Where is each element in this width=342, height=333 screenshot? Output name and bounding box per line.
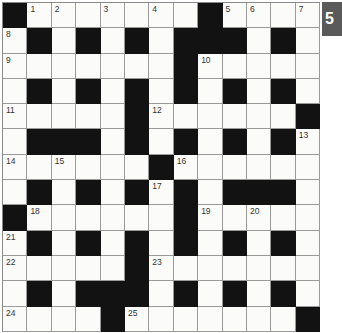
crossword-cell[interactable] [198,79,222,104]
crossword-cell[interactable]: 16 [174,155,198,180]
crossword-cell[interactable] [296,180,320,205]
crossword-cell[interactable]: 14 [3,155,27,180]
crossword-cell[interactable] [76,54,100,79]
crossword-cell[interactable] [76,307,100,332]
crossword-cell[interactable] [3,129,27,154]
crossword-cell[interactable]: 24 [3,307,27,332]
crossword-cell[interactable] [247,54,271,79]
crossword-cell[interactable]: 22 [3,256,27,281]
crossword-cell[interactable] [76,3,100,28]
crossword-cell[interactable] [296,256,320,281]
crossword-cell[interactable] [101,205,125,230]
crossword-cell[interactable] [101,104,125,129]
crossword-cell[interactable] [27,256,51,281]
crossword-cell[interactable] [52,54,76,79]
crossword-cell[interactable] [271,104,295,129]
crossword-cell[interactable] [296,155,320,180]
crossword-cell[interactable] [101,129,125,154]
crossword-cell[interactable]: 6 [247,3,271,28]
crossword-cell[interactable] [247,256,271,281]
crossword-cell[interactable]: 17 [149,180,173,205]
crossword-cell[interactable] [296,79,320,104]
crossword-cell[interactable] [198,307,222,332]
crossword-cell[interactable] [271,256,295,281]
crossword-cell[interactable]: 2 [52,3,76,28]
crossword-cell[interactable] [101,231,125,256]
crossword-cell[interactable] [198,231,222,256]
crossword-cell[interactable] [198,281,222,306]
crossword-cell[interactable] [296,28,320,53]
crossword-cell[interactable] [125,3,149,28]
crossword-cell[interactable] [76,155,100,180]
crossword-cell[interactable] [223,205,247,230]
crossword-cell[interactable] [149,307,173,332]
crossword-cell[interactable] [52,28,76,53]
crossword-cell[interactable] [27,155,51,180]
crossword-cell[interactable] [52,205,76,230]
crossword-cell[interactable] [223,155,247,180]
crossword-cell[interactable]: 4 [149,3,173,28]
crossword-cell[interactable]: 21 [3,231,27,256]
crossword-cell[interactable] [198,104,222,129]
crossword-cell[interactable]: 1 [27,3,51,28]
crossword-cell[interactable] [247,307,271,332]
crossword-cell[interactable] [52,231,76,256]
crossword-cell[interactable] [27,104,51,129]
crossword-cell[interactable]: 7 [296,3,320,28]
crossword-cell[interactable] [247,281,271,306]
crossword-cell[interactable] [101,79,125,104]
crossword-cell[interactable] [296,205,320,230]
crossword-cell[interactable] [149,205,173,230]
crossword-cell[interactable] [271,3,295,28]
crossword-cell[interactable] [101,28,125,53]
crossword-cell[interactable] [76,256,100,281]
crossword-cell[interactable]: 18 [27,205,51,230]
crossword-cell[interactable]: 15 [52,155,76,180]
crossword-cell[interactable] [271,205,295,230]
crossword-cell[interactable] [101,155,125,180]
crossword-cell[interactable] [3,281,27,306]
crossword-cell[interactable]: 5 [223,3,247,28]
crossword-cell[interactable] [247,104,271,129]
crossword-cell[interactable]: 3 [101,3,125,28]
crossword-cell[interactable] [52,180,76,205]
crossword-cell[interactable] [247,231,271,256]
crossword-cell[interactable] [271,155,295,180]
crossword-cell[interactable] [52,79,76,104]
crossword-cell[interactable] [296,281,320,306]
crossword-cell[interactable] [149,231,173,256]
crossword-cell[interactable] [52,256,76,281]
crossword-cell[interactable] [149,28,173,53]
crossword-cell[interactable] [101,54,125,79]
crossword-cell[interactable]: 12 [149,104,173,129]
crossword-cell[interactable] [149,129,173,154]
crossword-cell[interactable] [223,256,247,281]
crossword-cell[interactable] [247,79,271,104]
crossword-cell[interactable] [52,307,76,332]
crossword-cell[interactable] [223,54,247,79]
crossword-cell[interactable] [247,129,271,154]
crossword-cell[interactable] [174,256,198,281]
crossword-cell[interactable] [76,104,100,129]
crossword-cell[interactable] [149,281,173,306]
crossword-cell[interactable] [125,155,149,180]
crossword-cell[interactable] [125,54,149,79]
crossword-cell[interactable] [198,180,222,205]
crossword-cell[interactable] [3,79,27,104]
crossword-cell[interactable]: 9 [3,54,27,79]
crossword-cell[interactable] [76,205,100,230]
crossword-cell[interactable] [174,307,198,332]
crossword-cell[interactable] [149,54,173,79]
crossword-cell[interactable] [198,129,222,154]
crossword-cell[interactable] [52,281,76,306]
crossword-cell[interactable]: 8 [3,28,27,53]
crossword-cell[interactable] [3,180,27,205]
crossword-cell[interactable]: 25 [125,307,149,332]
crossword-cell[interactable] [223,307,247,332]
crossword-cell[interactable] [27,54,51,79]
crossword-cell[interactable] [174,3,198,28]
crossword-cell[interactable] [27,307,51,332]
crossword-cell[interactable] [247,28,271,53]
crossword-cell[interactable]: 10 [198,54,222,79]
crossword-cell[interactable] [101,256,125,281]
